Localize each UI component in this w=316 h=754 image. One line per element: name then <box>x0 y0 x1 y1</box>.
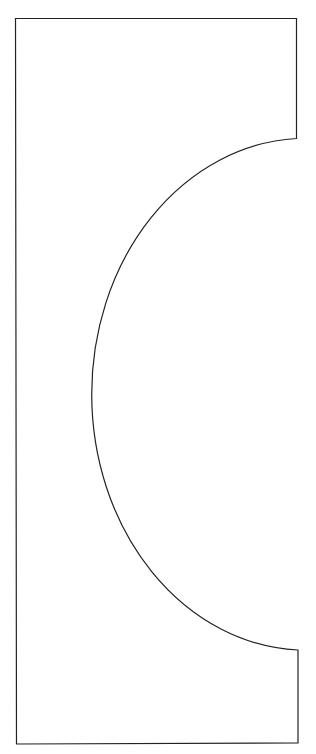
cutout-rectangle-shape <box>16 19 299 745</box>
diagram-canvas <box>0 0 316 754</box>
